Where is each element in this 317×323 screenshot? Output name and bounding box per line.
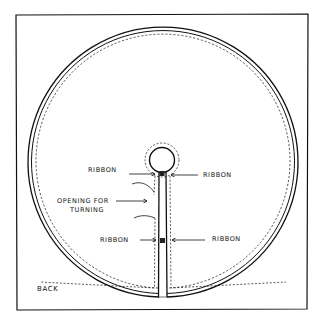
ribbon-top-marker — [160, 171, 165, 176]
label-ribbon-bottom-left: RIBBON — [100, 236, 129, 244]
frame-border — [16, 14, 308, 310]
center-hole — [150, 148, 175, 173]
outer-edge — [28, 27, 298, 297]
opening-end-mark — [134, 216, 155, 218]
diagram-canvas: RIBBON RIBBON OPENING FOR TURNING RIBBON… — [0, 0, 317, 323]
opening-start-mark — [132, 183, 154, 192]
ribbon-bottom-marker — [160, 238, 165, 243]
outer-stitch-line — [36, 34, 290, 288]
label-opening-line1: OPENING FOR — [57, 197, 109, 205]
slit-stitch-lines — [40, 176, 286, 288]
slit — [158, 172, 168, 297]
label-back: BACK — [37, 285, 58, 293]
label-ribbon-top-left: RIBBON — [88, 166, 117, 174]
label-ribbon-bottom-right: RIBBON — [212, 235, 241, 243]
label-opening-line2: TURNING — [69, 206, 104, 214]
label-ribbon-top-right: RIBBON — [203, 171, 232, 179]
